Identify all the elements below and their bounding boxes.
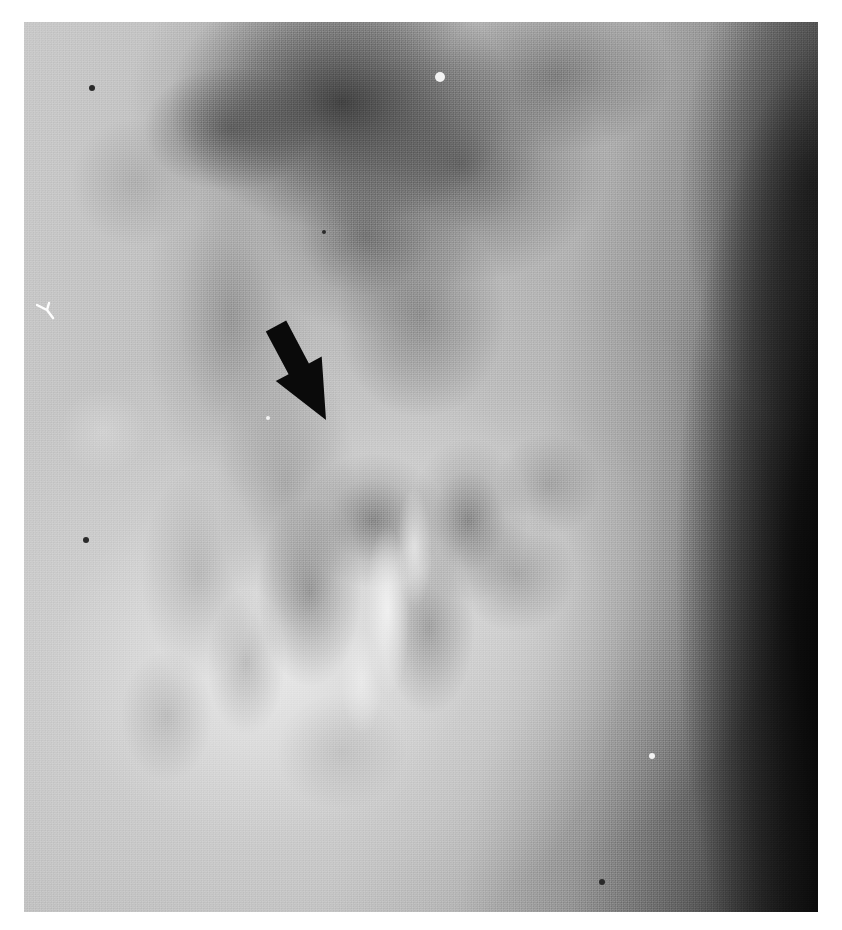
pointer-arrow bbox=[24, 22, 818, 912]
arrow-glyph bbox=[266, 321, 326, 420]
screenshot-root bbox=[0, 0, 842, 930]
radiograph-plate bbox=[24, 22, 818, 912]
